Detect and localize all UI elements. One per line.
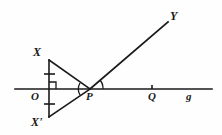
geometry-figure: X X' O P Q g Y	[0, 0, 222, 135]
label-point-o: O	[31, 91, 39, 102]
label-ray-y: Y	[170, 10, 177, 22]
angle-arc-exterior-at-p	[100, 80, 103, 89]
label-point-x-prime: X'	[31, 116, 42, 128]
label-point-x: X	[33, 46, 41, 58]
label-line-g: g	[186, 91, 192, 102]
ray-p-to-y	[90, 22, 168, 89]
right-angle-marker-at-o	[49, 82, 56, 89]
label-point-p: P	[86, 91, 93, 102]
label-point-q: Q	[148, 91, 156, 102]
segment-xprime-to-p	[49, 89, 90, 117]
segment-x-to-p	[49, 60, 90, 89]
